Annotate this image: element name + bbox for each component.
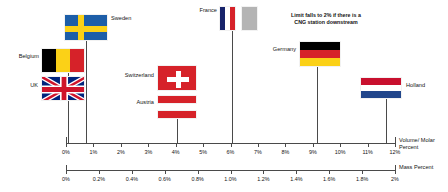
flag-austria (157, 95, 197, 104)
leader-line-sweden (86, 36, 87, 143)
axis-volume-molar-tick (66, 143, 67, 147)
axis-mass-tick-label: 2% (383, 176, 407, 182)
axis-volume-molar-tick-label: 5% (191, 149, 215, 155)
axis-mass-tick (99, 170, 100, 174)
flag-belgium (41, 48, 85, 73)
label-sweden: Sweden (111, 15, 131, 21)
axis-volume-molar-title: Volume/ Molar Percent (399, 137, 435, 151)
axis-mass-tick-label: 0.8% (186, 176, 210, 182)
axis-volume-molar-tick (368, 143, 369, 147)
axis-volume-molar-tick-label: 11% (356, 149, 380, 155)
flag-holland (360, 77, 402, 99)
annotation-line-2: CNG station downstream (257, 19, 395, 26)
label-germany: Germany (258, 46, 296, 52)
flag-uk (41, 76, 85, 101)
axis-mass-tick-label: 0.6% (153, 176, 177, 182)
leader-line-france (232, 30, 233, 143)
axis-volume-molar-tick (231, 143, 232, 147)
axis-mass-tick (132, 170, 133, 174)
axis-volume-molar-tick (340, 143, 341, 147)
axis-mass-tick (395, 170, 396, 174)
axis-volume-molar-tick-label: 7% (246, 149, 270, 155)
label-holland: Holland (406, 82, 425, 88)
flag-austria-lower-band (157, 110, 197, 119)
axis-mass-tick-label: 1.8% (350, 176, 374, 182)
leader-line-germany (317, 67, 318, 143)
axis-mass-tick-label: 1.0% (219, 176, 243, 182)
axis-mass-tick-label: 0.4% (120, 176, 144, 182)
axis-mass-tick (66, 170, 67, 174)
axis-volume-molar-tick-label: 8% (273, 149, 297, 155)
label-uk: UK (8, 82, 38, 88)
leader-line-switzerland-austria (177, 118, 178, 143)
axis-volume-molar-tick-label: 6% (219, 149, 243, 155)
axis-volume-molar-tick-label: 2% (109, 149, 133, 155)
axis-mass-title: Mass Percent (399, 164, 433, 171)
axis-mass-tick-label: 0.2% (87, 176, 111, 182)
label-switzerland: Switzerland (105, 72, 154, 78)
axis-volume-molar-tick (176, 143, 177, 147)
axis-mass-tick (231, 170, 232, 174)
axis-mass-tick (198, 170, 199, 174)
axis-volume-molar-tick (93, 143, 94, 147)
flag-france-secondary (241, 6, 258, 31)
leader-line-holland (386, 99, 387, 143)
axis-volume-molar-tick-label: 0% (54, 149, 78, 155)
axis-volume-molar-tick-label: 9% (301, 149, 325, 155)
axis-mass-tick-label: 1.4% (284, 176, 308, 182)
annotation-line-1: Limit falls to 2% if there is a (257, 12, 395, 19)
axis-volume-molar-tick-label: 10% (328, 149, 352, 155)
axis-mass-tick (263, 170, 264, 174)
axis-mass-tick-label: 1.6% (317, 176, 341, 182)
axis-volume-molar-tick (121, 143, 122, 147)
axis-volume-molar-tick-label: 4% (164, 149, 188, 155)
axis-volume-molar-title-line2: Percent (399, 144, 435, 151)
axis-volume-molar-tick (313, 143, 314, 147)
flag-germany (299, 41, 341, 67)
label-austria: Austria (112, 99, 154, 105)
axis-mass-tick-label: 0% (54, 176, 78, 182)
annotation-cng-limit: Limit falls to 2% if there is a CNG stat… (257, 12, 395, 26)
axis-mass-tick (165, 170, 166, 174)
axis-mass-tick-label: 1.2% (251, 176, 275, 182)
axis-volume-molar-title-line1: Volume/ Molar (399, 137, 435, 144)
hydrogen-limits-chart: Sweden Belgium UK Switzerland Austria Fr… (0, 0, 448, 192)
axis-volume-molar-tick (285, 143, 286, 147)
axis-volume-molar-tick (203, 143, 204, 147)
axis-mass-tick (296, 170, 297, 174)
axis-volume-molar-tick (148, 143, 149, 147)
axis-mass-tick (362, 170, 363, 174)
axis-volume-molar-tick-label: 3% (136, 149, 160, 155)
flag-sweden (64, 14, 108, 41)
flag-switzerland (157, 65, 197, 91)
axis-volume-molar-tick (395, 143, 396, 147)
axis-mass-tick (329, 170, 330, 174)
label-france: France (186, 7, 217, 13)
axis-volume-molar-tick-label: 1% (81, 149, 105, 155)
axis-volume-molar-tick (258, 143, 259, 147)
flag-france (219, 6, 236, 31)
label-belgium: Belgium (8, 53, 39, 59)
